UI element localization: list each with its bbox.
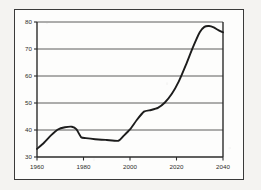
data-line-series-1 — [37, 26, 223, 149]
x-axis-tick-label: 1980 — [77, 163, 91, 170]
x-axis-tick-label: 2040 — [216, 163, 230, 170]
scanned-page-background: 30405060708019601980200020202040 — [0, 0, 261, 190]
y-axis-tick-label: 30 — [25, 153, 32, 160]
figure-frame: 30405060708019601980200020202040 — [14, 9, 244, 180]
y-axis-tick-label: 40 — [25, 126, 32, 133]
line-chart: 30405060708019601980200020202040 — [15, 10, 245, 181]
plot-area: 30405060708019601980200020202040 — [15, 10, 245, 181]
y-axis-tick-label: 70 — [25, 45, 32, 52]
y-axis-tick-label: 50 — [25, 99, 32, 106]
y-axis-tick-label: 60 — [25, 72, 32, 79]
y-axis-tick-label: 80 — [25, 18, 32, 25]
x-axis-tick-label: 2020 — [170, 163, 184, 170]
x-axis-tick-label: 2000 — [123, 163, 137, 170]
x-axis-tick-label: 1960 — [30, 163, 44, 170]
